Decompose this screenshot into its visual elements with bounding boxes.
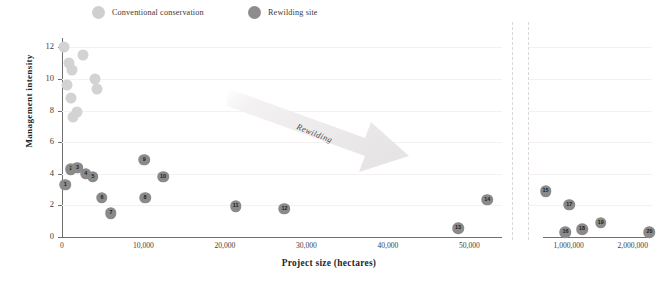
data-point-1[interactable]: 1 xyxy=(60,179,72,191)
gridline xyxy=(528,111,652,112)
chart-legend: Conventional conservation Rewilding site xyxy=(0,6,658,28)
scatter-chart-figure: Conventional conservation Rewilding site… xyxy=(0,0,658,283)
data-point-label: 7 xyxy=(109,211,112,216)
data-point-16[interactable]: 16 xyxy=(560,227,572,239)
data-point-12[interactable]: 12 xyxy=(279,203,291,215)
data-point-label: 14 xyxy=(484,197,490,202)
legend-label: Rewilding site xyxy=(268,8,318,17)
data-point-13[interactable]: 13 xyxy=(452,223,464,235)
data-point-label: 16 xyxy=(562,230,568,235)
gridline xyxy=(62,111,502,112)
data-point-label: 9 xyxy=(143,157,146,162)
x-tick-label: 20,000 xyxy=(215,241,236,250)
data-point-18[interactable]: 18 xyxy=(576,223,588,235)
data-point-label: 6 xyxy=(100,195,103,200)
y-tick-label: 0 xyxy=(28,231,54,241)
data-point-label: 13 xyxy=(455,226,461,231)
data-point[interactable] xyxy=(78,50,89,61)
data-point-9[interactable]: 9 xyxy=(139,154,151,166)
x-tick-label: 50,000 xyxy=(459,241,480,250)
axis-break-marker-right xyxy=(528,22,529,240)
data-point-17[interactable]: 17 xyxy=(564,199,576,211)
data-point-20[interactable]: 20 xyxy=(644,227,656,239)
x-tick-label: 30,000 xyxy=(296,241,317,250)
gridlines-right-panel xyxy=(528,38,652,237)
x-axis-title: Project size (hectares) xyxy=(0,258,658,268)
data-point-11[interactable]: 11 xyxy=(230,200,242,212)
data-point-7[interactable]: 7 xyxy=(105,208,117,220)
gridline xyxy=(62,47,502,48)
y-tick-label: 2 xyxy=(28,199,54,209)
circle-marker-icon xyxy=(248,6,261,19)
x-axis-line-right-panel xyxy=(543,237,652,238)
data-point-6[interactable]: 6 xyxy=(96,192,108,204)
data-point-label: 1 xyxy=(64,182,67,187)
y-axis-title: Management intensity xyxy=(24,26,34,176)
gridline xyxy=(62,142,502,143)
legend-item-rewilding-site[interactable]: Rewilding site xyxy=(248,6,318,19)
data-point-5[interactable]: 5 xyxy=(87,171,99,183)
data-point-label: 17 xyxy=(566,202,572,207)
x-tick-label: 2,000,000 xyxy=(618,241,648,250)
gridline xyxy=(62,174,502,175)
x-axis-line-left-panel xyxy=(62,237,502,238)
gridline xyxy=(528,79,652,80)
data-point-label: 5 xyxy=(91,174,94,179)
data-point-label: 3 xyxy=(76,165,79,170)
data-point-label: 8 xyxy=(144,195,147,200)
data-point-10[interactable]: 10 xyxy=(157,171,169,183)
data-point-label: 15 xyxy=(543,188,549,193)
data-point-19[interactable]: 19 xyxy=(595,217,607,229)
x-tick-label: 1,000,000 xyxy=(553,241,583,250)
data-point-label: 18 xyxy=(579,226,585,231)
x-tick-label: 10,000 xyxy=(133,241,154,250)
data-point-label: 11 xyxy=(233,203,239,208)
data-point[interactable] xyxy=(59,42,70,53)
data-point[interactable] xyxy=(92,83,103,94)
gridline xyxy=(528,47,652,48)
legend-label: Conventional conservation xyxy=(112,8,204,17)
data-point[interactable] xyxy=(66,64,77,75)
data-point-14[interactable]: 14 xyxy=(482,194,494,206)
data-point-8[interactable]: 8 xyxy=(139,192,151,204)
data-point[interactable] xyxy=(61,80,72,91)
data-point[interactable] xyxy=(65,93,76,104)
x-tick-label: 0 xyxy=(60,241,64,250)
axis-break-marker-left xyxy=(512,22,513,240)
data-point-label: 19 xyxy=(598,220,604,225)
data-point-15[interactable]: 15 xyxy=(540,185,552,197)
gridline xyxy=(528,205,652,206)
data-point-label: 10 xyxy=(160,174,166,179)
gridline xyxy=(528,174,652,175)
x-tick-label: 40,000 xyxy=(377,241,398,250)
circle-marker-icon xyxy=(92,6,105,19)
data-point-label: 12 xyxy=(281,206,287,211)
gridline xyxy=(62,79,502,80)
gridline xyxy=(528,142,652,143)
legend-item-conventional-conservation[interactable]: Conventional conservation xyxy=(92,6,204,19)
data-point-label: 20 xyxy=(646,230,652,235)
data-point[interactable] xyxy=(67,111,78,122)
